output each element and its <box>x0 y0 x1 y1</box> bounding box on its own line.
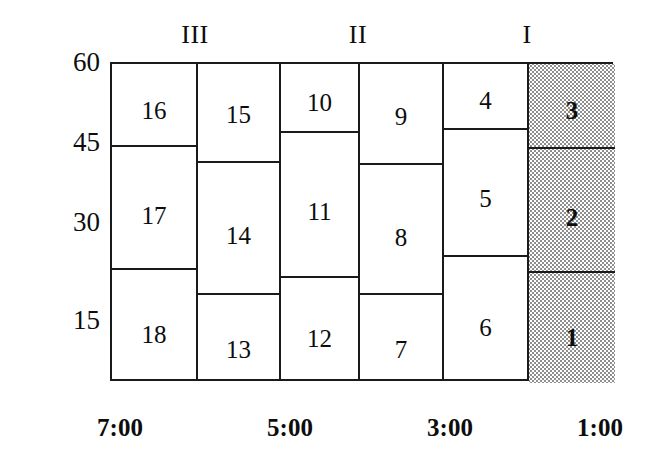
y-axis-tick: 45 <box>38 129 100 156</box>
schedule-block[interactable]: 14 <box>198 163 279 295</box>
schedule-block[interactable]: 7 <box>360 295 442 383</box>
schedule-block-label: 11 <box>281 199 358 224</box>
y-axis-tick: 15 <box>38 307 100 334</box>
schedule-grid: 161718151413101112987456321 <box>110 62 613 381</box>
schedule-block-label: 17 <box>112 203 196 228</box>
schedule-block[interactable]: 17 <box>112 147 196 270</box>
schedule-block[interactable]: 12 <box>281 278 358 383</box>
schedule-block-label: 2 <box>529 205 615 230</box>
column-1: 161718 <box>112 64 198 379</box>
column-4: 987 <box>360 64 444 379</box>
schedule-block-label: 8 <box>360 225 442 250</box>
schedule-block-label: 10 <box>281 90 358 115</box>
column-3: 101112 <box>281 64 360 379</box>
schedule-block-label: 14 <box>198 223 279 248</box>
schedule-block[interactable]: 5 <box>444 130 527 257</box>
schedule-block-label: 6 <box>444 315 527 340</box>
x-axis-tick: 3:00 <box>390 415 510 440</box>
schedule-block[interactable]: 18 <box>112 270 196 383</box>
schedule-block-label: 5 <box>444 186 527 211</box>
group-label-ii: II <box>298 22 418 48</box>
schedule-block-label: 9 <box>360 104 442 129</box>
schedule-block[interactable]: 10 <box>281 64 358 133</box>
schedule-block-label: 7 <box>360 337 442 362</box>
schedule-block-label: 1 <box>529 325 615 350</box>
schedule-block[interactable]: 8 <box>360 165 442 295</box>
figure-canvas: IIIIII 60453015 161718151413101112987456… <box>0 0 665 469</box>
schedule-block[interactable]: 9 <box>360 64 442 165</box>
y-axis: 60453015 <box>0 0 100 469</box>
schedule-block[interactable]: 6 <box>444 257 527 383</box>
schedule-block-label: 4 <box>444 88 527 113</box>
group-label-iii: III <box>135 22 255 48</box>
x-axis-tick: 7:00 <box>60 415 180 440</box>
schedule-block-label: 15 <box>198 102 279 127</box>
column-6: 321 <box>529 64 615 379</box>
schedule-block[interactable]: 13 <box>198 295 279 383</box>
y-axis-tick: 60 <box>38 49 100 76</box>
schedule-block-label: 12 <box>281 326 358 351</box>
column-5: 456 <box>444 64 529 379</box>
x-axis-tick: 1:00 <box>540 415 660 440</box>
y-axis-tick: 30 <box>38 209 100 236</box>
schedule-block-label: 3 <box>529 98 615 123</box>
schedule-block-label: 18 <box>112 322 196 347</box>
schedule-block[interactable]: 16 <box>112 64 196 147</box>
x-axis-tick: 5:00 <box>230 415 350 440</box>
schedule-block-label: 16 <box>112 98 196 123</box>
schedule-block-label: 13 <box>198 337 279 362</box>
schedule-block[interactable]: 11 <box>281 133 358 278</box>
column-2: 151413 <box>198 64 281 379</box>
group-label-i: I <box>467 22 587 48</box>
schedule-block[interactable]: 3 <box>529 64 615 149</box>
schedule-block[interactable]: 2 <box>529 149 615 273</box>
schedule-block[interactable]: 4 <box>444 64 527 130</box>
schedule-block[interactable]: 15 <box>198 64 279 163</box>
schedule-block[interactable]: 1 <box>529 273 615 383</box>
